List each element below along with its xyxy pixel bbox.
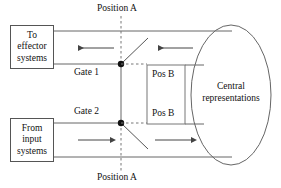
pos-b-bottom-label: Pos B [152, 108, 174, 119]
gate-2-switch-arm[interactable] [121, 123, 148, 149]
position-a-bottom-label: Position A [97, 172, 137, 183]
pos-b-top-label: Pos B [152, 69, 174, 80]
effector-systems-line-1: To [27, 30, 37, 42]
effector-systems-line-3: systems [17, 53, 47, 65]
position-a-top-label: Position A [97, 3, 137, 14]
input-systems-line-1: From [22, 123, 43, 135]
gate-1-label: Gate 1 [74, 67, 99, 78]
input-systems-line-2: input [22, 134, 42, 146]
diagram-canvas: To effector systems From input systems P… [0, 0, 281, 188]
effector-systems-line-2: effector [17, 41, 46, 53]
effector-systems-box: To effector systems [10, 25, 54, 69]
gate-2-label: Gate 2 [74, 106, 99, 117]
input-systems-line-3: systems [17, 146, 47, 158]
gate-1-switch-arm[interactable] [121, 38, 148, 64]
input-systems-box: From input systems [10, 118, 54, 162]
central-representations-label: Central representations [196, 80, 266, 104]
